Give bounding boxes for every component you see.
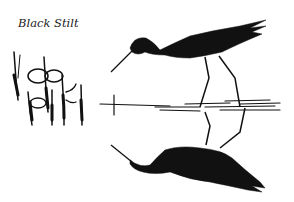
black-stilt-icon (111, 20, 266, 107)
water-ripples-icon (100, 95, 280, 115)
reflection-icon (111, 108, 265, 192)
stilt-illustration (0, 0, 294, 202)
reeds-icon (14, 52, 82, 125)
